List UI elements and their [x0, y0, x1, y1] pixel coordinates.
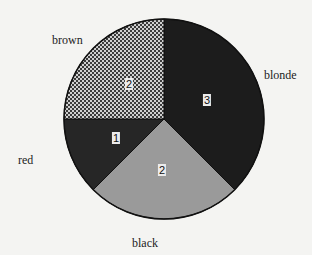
value-blonde: 3 — [203, 94, 211, 106]
pie-chart — [0, 0, 312, 255]
value-black: 2 — [158, 164, 166, 176]
label-red: red — [18, 153, 33, 168]
value-brown: 2 — [125, 78, 133, 90]
label-brown: brown — [52, 33, 83, 48]
label-blonde: blonde — [264, 68, 297, 83]
label-black: black — [132, 236, 158, 251]
value-red: 1 — [112, 132, 120, 144]
